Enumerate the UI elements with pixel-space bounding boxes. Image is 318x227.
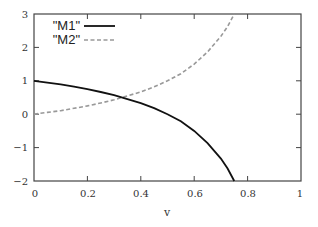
x-tick-label: 0.2	[80, 188, 96, 199]
legend-label-m1: "M1"	[53, 18, 81, 33]
x-tick-label: 0.4	[133, 188, 149, 199]
y-tick-label: −1	[13, 142, 28, 153]
x-ticks	[87, 14, 247, 181]
legend-label-m2: "M2"	[53, 32, 81, 47]
legend: "M1" "M2"	[53, 18, 115, 47]
y-tick-label: 3	[22, 9, 28, 20]
x-axis-label: v	[163, 206, 171, 219]
series-m1-line	[34, 81, 234, 181]
y-ticks	[34, 47, 301, 147]
y-tick-label: 1	[22, 75, 28, 86]
x-tick-label: 1	[297, 188, 303, 199]
y-tick-label: 0	[22, 109, 28, 120]
x-tick-label: 0.6	[187, 188, 203, 199]
x-tick-label: 0.8	[240, 188, 256, 199]
y-tick-label: 2	[22, 42, 28, 53]
chart: 3 2 1 0 −1 −2 0 0.2 0.4 0.6 0.8 1 v "M1"…	[0, 0, 318, 227]
y-tick-labels: 3 2 1 0 −1 −2	[13, 9, 28, 187]
y-tick-label: −2	[13, 176, 28, 187]
x-tick-labels: 0 0.2 0.4 0.6 0.8 1	[32, 188, 303, 199]
x-tick-label: 0	[32, 188, 38, 199]
